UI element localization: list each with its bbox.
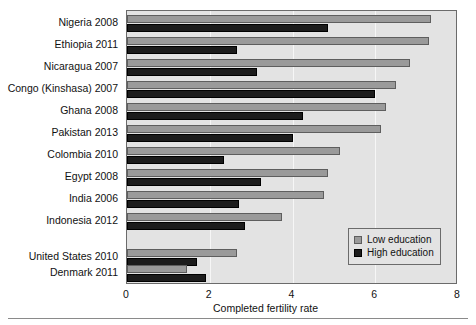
bar-low-education: [127, 191, 324, 199]
y-axis-label: Egypt 2008: [65, 171, 118, 182]
legend-item-high-education: High education: [354, 247, 434, 259]
x-tick-label: 8: [454, 288, 460, 300]
bar-high-education: [127, 46, 237, 54]
y-axis-label: India 2006: [69, 193, 118, 204]
bar-row: [127, 147, 456, 165]
x-tick-label: 6: [371, 288, 377, 300]
bar-low-education: [127, 37, 429, 45]
bar-low-education: [127, 15, 431, 23]
legend-swatch-low-education: [354, 236, 362, 244]
bar-row: [127, 125, 456, 143]
y-axis-label: Indonesia 2012: [46, 215, 118, 226]
bar-high-education: [127, 24, 328, 32]
x-tick-label: 2: [206, 288, 212, 300]
bar-high-education: [127, 274, 206, 282]
bar-row: [127, 81, 456, 99]
footer-divider: [8, 318, 468, 319]
x-tick-label: 4: [289, 288, 295, 300]
bar-low-education: [127, 59, 410, 67]
x-axis-title-text: Completed fertility rate: [213, 302, 318, 314]
bar-high-education: [127, 112, 303, 120]
fertility-rate-bar-chart: Nigeria 2008Ethiopia 2011Nicaragua 2007C…: [0, 0, 476, 325]
y-axis-label: Denmark 2011: [50, 267, 118, 278]
x-axis-title: Completed fertility rate: [0, 302, 476, 314]
bar-low-education: [127, 213, 282, 221]
bar-row: [127, 265, 456, 283]
y-axis-label: Ethiopia 2011: [55, 39, 118, 50]
bar-low-education: [127, 265, 187, 273]
legend: Low education High education: [348, 228, 441, 265]
bar-row: [127, 169, 456, 187]
bar-row: [127, 59, 456, 77]
bar-low-education: [127, 103, 386, 111]
y-axis-label: Congo (Kinshasa) 2007: [8, 83, 118, 94]
bar-high-education: [127, 178, 261, 186]
x-tick-label: 0: [123, 288, 129, 300]
y-axis-label: Pakistan 2013: [51, 127, 118, 138]
bar-low-education: [127, 81, 396, 89]
bar-low-education: [127, 125, 381, 133]
y-axis-label: Ghana 2008: [60, 105, 118, 116]
y-axis-label: Nicaragua 2007: [44, 61, 118, 72]
bar-high-education: [127, 90, 375, 98]
bar-low-education: [127, 249, 237, 257]
bar-row: [127, 15, 456, 33]
bar-high-education: [127, 68, 257, 76]
bar-row: [127, 191, 456, 209]
legend-label-low-education: Low education: [367, 234, 432, 246]
bar-high-education: [127, 156, 224, 164]
y-axis-label: Nigeria 2008: [58, 17, 118, 28]
legend-item-low-education: Low education: [354, 234, 434, 246]
bar-row: [127, 103, 456, 121]
bar-high-education: [127, 222, 245, 230]
bar-low-education: [127, 147, 340, 155]
legend-swatch-high-education: [354, 249, 362, 257]
y-axis-label: United States 2010: [29, 251, 118, 262]
bar-low-education: [127, 169, 328, 177]
bar-high-education: [127, 200, 239, 208]
bar-row: [127, 37, 456, 55]
bar-high-education: [127, 134, 293, 142]
legend-label-high-education: High education: [367, 247, 434, 259]
y-axis-labels: Nigeria 2008Ethiopia 2011Nicaragua 2007C…: [0, 10, 122, 284]
y-axis-label: Colombia 2010: [47, 149, 118, 160]
